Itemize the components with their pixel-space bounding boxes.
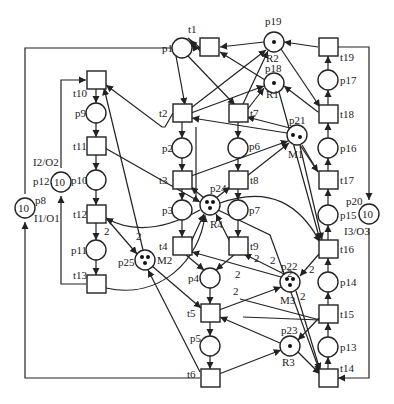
svg-text:2: 2 (309, 263, 315, 275)
svg-text:I1/O1: I1/O1 (34, 212, 60, 224)
label-p1: p1 (162, 42, 173, 54)
svg-text:10: 10 (54, 176, 66, 188)
svg-text:p2: p2 (162, 142, 173, 154)
svg-text:p15: p15 (340, 209, 357, 221)
svg-text:R3: R3 (282, 356, 295, 368)
svg-text:2: 2 (287, 267, 293, 279)
svg-text:t9: t9 (250, 240, 259, 252)
svg-text:t4: t4 (159, 240, 168, 252)
svg-text:p11: p11 (71, 244, 87, 256)
svg-text:10: 10 (18, 202, 30, 214)
svg-text:p16: p16 (340, 142, 357, 154)
svg-text:p4: p4 (188, 272, 200, 284)
svg-text:t11: t11 (73, 140, 87, 152)
svg-text:p7: p7 (249, 204, 261, 216)
svg-text:p19: p19 (265, 15, 282, 27)
svg-text:p14: p14 (340, 276, 357, 288)
svg-text:t13: t13 (73, 269, 88, 281)
svg-text:p5: p5 (190, 332, 202, 344)
svg-text:p20: p20 (346, 195, 363, 207)
svg-text:p13: p13 (340, 341, 357, 353)
svg-text:p23: p23 (281, 324, 298, 336)
svg-text:p24: p24 (210, 182, 227, 194)
svg-text:t18: t18 (340, 108, 355, 120)
svg-text:p10: p10 (71, 174, 88, 186)
svg-text:t17: t17 (340, 174, 355, 186)
svg-text:t6: t6 (187, 368, 196, 380)
svg-text:2: 2 (235, 268, 241, 280)
svg-text:t16: t16 (340, 243, 355, 255)
svg-text:t7: t7 (250, 107, 259, 119)
svg-text:t19: t19 (340, 51, 355, 63)
svg-text:2: 2 (104, 225, 110, 237)
svg-text:2: 2 (300, 290, 306, 302)
svg-text:p17: p17 (340, 74, 357, 86)
svg-text:2: 2 (254, 252, 260, 264)
svg-text:M2: M2 (157, 254, 172, 266)
svg-text:p8: p8 (35, 194, 47, 206)
svg-text:t14: t14 (340, 362, 355, 374)
svg-text:I2/O2: I2/O2 (33, 156, 59, 168)
svg-text:2: 2 (270, 254, 276, 266)
svg-text:R4: R4 (210, 218, 223, 230)
svg-text:I3/O3: I3/O3 (344, 225, 370, 237)
svg-text:10: 10 (362, 208, 374, 220)
svg-text:t12: t12 (73, 208, 87, 220)
svg-text:R2: R2 (266, 52, 279, 64)
svg-text:2: 2 (233, 285, 239, 297)
svg-text:p9: p9 (75, 107, 87, 119)
svg-text:p6: p6 (249, 140, 261, 152)
svg-text:M3: M3 (280, 294, 296, 306)
svg-text:t3: t3 (159, 174, 168, 186)
svg-text:t10: t10 (73, 87, 88, 99)
svg-text:t5: t5 (187, 307, 196, 319)
svg-text:R1: R1 (266, 88, 279, 100)
svg-text:p3: p3 (162, 204, 174, 216)
petri-net-diagram: p1 p2 p3 p4 p5 p6 p7 p9 p10 p11 p13 p14 … (0, 0, 394, 404)
svg-text:t1: t1 (188, 23, 197, 35)
svg-text:t15: t15 (340, 308, 355, 320)
svg-text:p25: p25 (118, 256, 135, 268)
svg-text:t2: t2 (159, 107, 168, 119)
svg-text:p12: p12 (33, 175, 50, 187)
svg-text:2: 2 (136, 230, 142, 242)
svg-text:t8: t8 (250, 174, 259, 186)
svg-text:M1: M1 (288, 148, 303, 160)
svg-text:p21: p21 (289, 114, 306, 126)
